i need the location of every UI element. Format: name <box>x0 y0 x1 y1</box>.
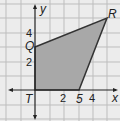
vertex-s-label: 5 <box>76 93 83 105</box>
x-tick-4: 4 <box>89 93 95 104</box>
y-axis-label: y <box>40 3 46 15</box>
y-tick-4: 4 <box>26 28 32 39</box>
vertex-t-label: T <box>25 93 32 105</box>
y-tick-2: 2 <box>26 57 32 68</box>
vertex-r-label: R <box>108 8 117 20</box>
x-tick-2: 2 <box>60 93 66 104</box>
x-axis-label: x <box>112 92 118 104</box>
vertex-q-label: Q <box>25 40 34 52</box>
